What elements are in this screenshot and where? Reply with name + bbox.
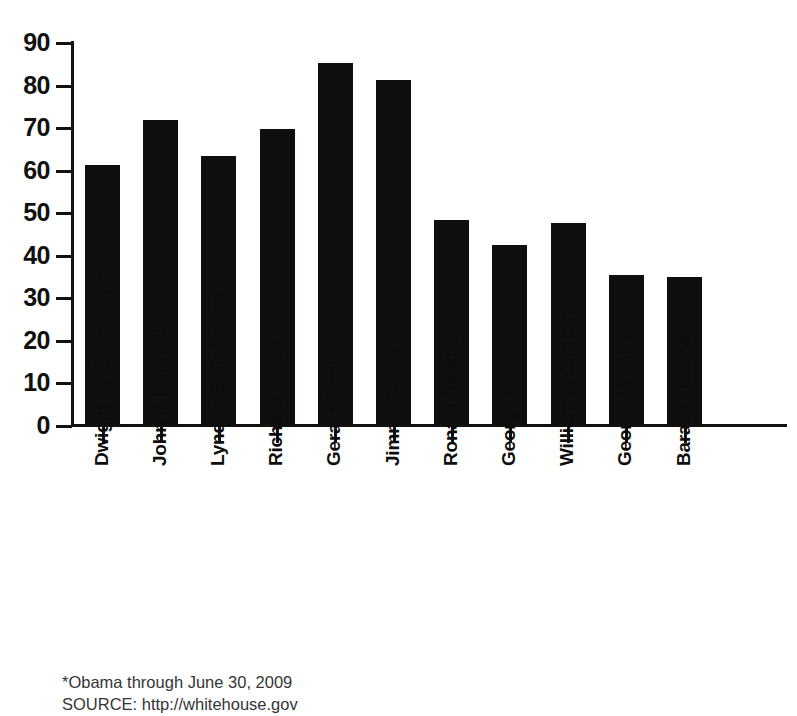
y-tick-label: 20: [0, 328, 50, 353]
x-axis-label: William J. Clinton: [557, 311, 576, 466]
y-tick-mark: [56, 425, 72, 428]
x-axis-label: Lyndon B. Johnson: [208, 293, 227, 466]
y-tick-mark: [56, 382, 72, 385]
x-axis-label: Dwight D. Eisenhower: [92, 270, 111, 466]
x-axis-label: Barack Obama: [674, 335, 693, 466]
y-tick-mark: [56, 340, 72, 343]
y-tick-mark: [56, 170, 72, 173]
y-tick-label: 50: [0, 200, 50, 225]
footnote-line-2: SOURCE: http://whitehouse.gov: [62, 694, 298, 716]
x-axis-label: George W. Bush: [615, 322, 634, 466]
y-tick-label: 10: [0, 370, 50, 395]
y-tick-label: 30: [0, 285, 50, 310]
y-tick-label: 40: [0, 243, 50, 268]
x-axis-label: John F. Kennedy: [150, 318, 169, 466]
y-tick-label: 0: [0, 413, 50, 438]
y-tick-label: 80: [0, 73, 50, 98]
x-axis-label: Richard Nixon: [266, 340, 285, 466]
x-axis-label: Jimmy Carter: [383, 347, 402, 466]
y-tick-label: 70: [0, 115, 50, 140]
y-tick-mark: [56, 42, 72, 45]
bar-chart: 0102030405060708090 Dwight D. Eisenhower…: [0, 0, 797, 716]
y-tick-label: 90: [0, 30, 50, 55]
x-axis-label: Ronald Reagan: [441, 330, 460, 466]
y-tick-mark: [56, 85, 72, 88]
y-tick-mark: [56, 127, 72, 130]
footnote: *Obama through June 30, 2009 SOURCE: htt…: [62, 672, 298, 716]
footnote-line-1: *Obama through June 30, 2009: [62, 672, 298, 694]
y-tick-mark: [56, 212, 72, 215]
y-tick-mark: [56, 297, 72, 300]
x-axis-label: Gerald Ford: [324, 361, 343, 466]
y-tick-label: 60: [0, 158, 50, 183]
y-tick-mark: [56, 255, 72, 258]
x-axis-label: George H.W. Bush: [499, 303, 518, 466]
y-axis-line: [71, 41, 74, 427]
